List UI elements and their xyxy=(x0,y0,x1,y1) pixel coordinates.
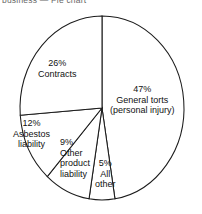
slice-name-other-product-liability-line3: liability xyxy=(60,169,90,180)
slice-label-general-torts: 47% General torts (personal injury) xyxy=(110,84,175,116)
pie-chart-figure: business — Pie chart 47% General torts (… xyxy=(0,0,202,214)
slice-label-all-other: 5% All other xyxy=(95,158,116,190)
slice-name-other-product-liability-line2: product xyxy=(60,158,90,169)
slice-name-general-torts-line1: General torts xyxy=(110,95,175,106)
slice-name-asbestos-liability-line2: liability xyxy=(13,139,50,150)
slice-label-asbestos-liability: 12% Asbestos liability xyxy=(13,118,50,150)
slice-percent-contracts: 26% xyxy=(38,58,77,69)
slice-name-all-other-line2: other xyxy=(95,179,116,190)
slice-name-contracts: Contracts xyxy=(38,69,77,80)
slice-percent-general-torts: 47% xyxy=(110,84,175,95)
slice-percent-other-product-liability: 9% xyxy=(60,137,90,148)
slice-percent-asbestos-liability: 12% xyxy=(13,118,50,129)
slice-name-asbestos-liability-line1: Asbestos xyxy=(13,129,50,140)
slice-percent-all-other: 5% xyxy=(95,158,116,169)
slice-name-all-other-line1: All xyxy=(95,169,116,180)
slice-name-other-product-liability-line1: Other xyxy=(60,148,90,159)
slice-label-other-product-liability: 9% Other product liability xyxy=(60,137,90,179)
slice-name-general-torts-line2: (personal injury) xyxy=(110,105,175,116)
slice-label-contracts: 26% Contracts xyxy=(38,58,77,79)
